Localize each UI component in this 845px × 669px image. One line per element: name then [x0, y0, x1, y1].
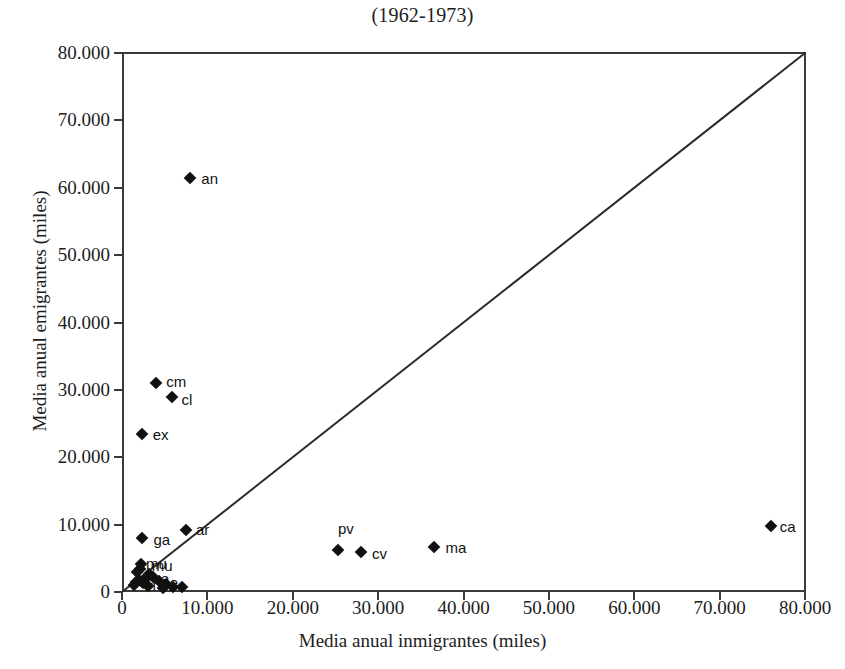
point-label-ar: ar [196, 521, 209, 538]
x-tick-label: 60.000 [608, 597, 660, 619]
y-tick-label: 10.000 [58, 514, 110, 536]
point-label-ma: ma [446, 538, 467, 555]
y-tick [114, 591, 122, 593]
y-tick [114, 524, 122, 526]
x-tick-label: 10.000 [181, 597, 233, 619]
y-tick-label: 80.000 [58, 42, 110, 64]
y-tick [114, 119, 122, 121]
x-tick-label: 20.000 [267, 597, 319, 619]
y-tick-label: 70.000 [58, 109, 110, 131]
point-label-ca: ca [780, 517, 796, 534]
x-tick-label: 80.000 [779, 597, 831, 619]
cluster-label-ce: ce [162, 573, 178, 590]
y-tick-label: 0 [101, 581, 111, 603]
point-label-ga: ga [153, 531, 170, 548]
point-label-cl: cl [182, 391, 193, 408]
x-tick-label: 0 [117, 597, 127, 619]
x-axis-title: Media anual inmigrantes (miles) [0, 630, 845, 652]
y-tick [114, 322, 122, 324]
diagonal-identity-line [122, 53, 805, 592]
chart-title: (1962-1973) [0, 4, 845, 27]
x-tick-label: 70.000 [694, 597, 746, 619]
y-tick-label: 30.000 [58, 379, 110, 401]
y-tick-label: 40.000 [58, 312, 110, 334]
point-label-ex: ex [153, 425, 169, 442]
y-tick [114, 389, 122, 391]
y-tick-label: 20.000 [58, 446, 110, 468]
x-tick-label: 40.000 [437, 597, 489, 619]
y-tick [114, 456, 122, 458]
y-tick [114, 52, 122, 54]
point-label-an: an [201, 169, 218, 186]
point-label-cv: cv [372, 544, 387, 561]
x-tick-label: 30.000 [352, 597, 404, 619]
y-tick-label: 60.000 [58, 177, 110, 199]
chart-page: (1962-1973) 010.00020.00030.00040.00050.… [0, 0, 845, 669]
cluster-label-ri: ri [148, 576, 156, 593]
point-label-pv: pv [338, 519, 354, 536]
point-label-cm: cm [166, 373, 186, 390]
x-tick-label: 50.000 [523, 597, 575, 619]
y-tick [114, 254, 122, 256]
y-tick-label: 50.000 [58, 244, 110, 266]
y-tick [114, 187, 122, 189]
y-axis-title: Media anual emigrantes (miles) [29, 51, 51, 571]
